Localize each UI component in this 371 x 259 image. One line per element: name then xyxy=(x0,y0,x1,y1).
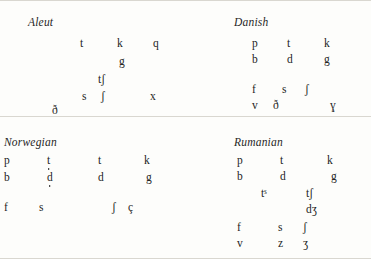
phoneme-symbol: t xyxy=(98,155,101,167)
phoneme-chart-danish: Danish ptkbdgfsʃvðɣ xyxy=(186,0,371,129)
phoneme-symbol: k xyxy=(327,155,333,167)
phoneme-symbol: p xyxy=(237,155,243,167)
phoneme-symbol: d xyxy=(287,54,293,66)
language-name-danish: Danish xyxy=(234,16,268,28)
phoneme-symbol: f xyxy=(252,84,256,96)
phoneme-symbol: ʃ xyxy=(305,84,309,96)
phoneme-symbol: ɣ xyxy=(330,100,336,112)
phoneme-symbol: d xyxy=(47,172,53,184)
phoneme-chart-norwegian: Norwegian pttkbddgfsʃç xyxy=(0,130,185,259)
phoneme-symbol: g xyxy=(119,56,125,68)
phoneme-chart-rumanian: Rumanian ptkbdgtˢtʃdʒfsʃvzʒ xyxy=(186,130,371,259)
phoneme-symbol: t xyxy=(47,155,50,167)
phoneme-symbol: ç xyxy=(128,202,133,214)
phoneme-symbol: s xyxy=(278,222,282,234)
under-dot-diacritic xyxy=(48,168,50,170)
document-page: Aleut tkqgtʃsʃxð Danish ptkbdgfsʃvðɣ Nor… xyxy=(0,0,371,259)
phoneme-symbol: tˢ xyxy=(261,188,267,200)
phoneme-symbol: t xyxy=(280,155,283,167)
phoneme-symbol: s xyxy=(282,84,286,96)
phoneme-symbol: ʒ xyxy=(303,238,308,250)
phoneme-symbol: s xyxy=(39,202,43,214)
phoneme-symbol: z xyxy=(278,238,283,250)
phoneme-symbol: b xyxy=(4,172,10,184)
phoneme-chart-aleut: Aleut tkqgtʃsʃxð xyxy=(0,0,185,129)
phoneme-symbol: k xyxy=(324,38,330,50)
phoneme-symbol: ʃ xyxy=(112,202,116,214)
phoneme-symbol: x xyxy=(150,91,156,103)
phoneme-symbol: t xyxy=(287,38,290,50)
phoneme-symbol: v xyxy=(252,100,258,112)
phoneme-symbol: ʃ xyxy=(101,91,105,103)
phoneme-symbol: dʒ xyxy=(306,204,317,216)
phoneme-symbol: v xyxy=(237,238,243,250)
phoneme-symbol: t xyxy=(80,38,83,50)
phoneme-symbol: k xyxy=(144,155,150,167)
phoneme-symbol: f xyxy=(237,222,241,234)
phoneme-symbol: g xyxy=(146,172,152,184)
phoneme-symbol: b xyxy=(237,171,243,183)
phoneme-symbol: tʃ xyxy=(98,74,105,86)
phoneme-symbol: g xyxy=(324,54,330,66)
language-name-norwegian: Norwegian xyxy=(4,136,57,148)
phoneme-symbol: ð xyxy=(273,100,279,112)
phoneme-symbol: p xyxy=(4,155,10,167)
phoneme-symbol: g xyxy=(331,171,337,183)
language-name-aleut: Aleut xyxy=(28,16,53,28)
phoneme-symbol: d xyxy=(98,172,104,184)
phoneme-symbol: s xyxy=(82,91,86,103)
phoneme-symbol: q xyxy=(153,38,159,50)
phoneme-symbol: p xyxy=(252,38,258,50)
phoneme-symbol: d xyxy=(280,171,286,183)
phoneme-symbol: ð xyxy=(52,105,58,117)
language-name-rumanian: Rumanian xyxy=(234,136,283,148)
phoneme-symbol: b xyxy=(252,54,258,66)
phoneme-symbol: f xyxy=(4,202,8,214)
phoneme-symbol: tʃ xyxy=(306,188,313,200)
under-dot-diacritic xyxy=(49,185,51,187)
phoneme-symbol: k xyxy=(117,38,123,50)
phoneme-symbol: ʃ xyxy=(303,222,307,234)
